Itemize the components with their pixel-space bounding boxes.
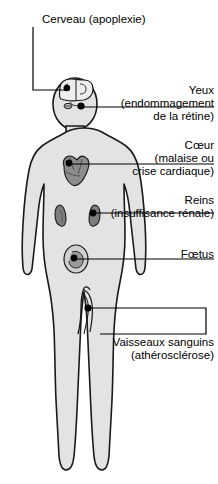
label-coeur-line-1: (malaise ou [132,152,214,165]
label-yeux: Yeux (endommagement de la rétine) [121,84,214,123]
label-yeux-line-1: (endommagement [121,97,214,110]
eye-marker-dot [77,102,84,109]
human-body-diagram [0,0,218,484]
label-reins-line-1: (insuffisance rénale) [111,207,214,220]
label-coeur-line-2: crise cardiaque) [132,165,214,178]
label-coeur-line-0: Cœur [132,139,214,152]
label-foetus: Fœtus [181,248,214,261]
heart-marker-dot [66,160,73,167]
leader-line-cerveau [33,27,67,90]
diagram-canvas: Cerveau (apoplexie) Yeux (endommagement … [0,0,218,484]
label-vaisseaux: Vaisseaux sanguins (athérosclérose) [113,336,214,362]
body-silhouette [22,78,146,470]
label-reins: Reins (insuffisance rénale) [111,194,214,220]
fetus-marker-dot [71,255,78,262]
label-yeux-line-2: de la rétine) [121,110,214,123]
label-yeux-line-0: Yeux [121,84,214,97]
label-cerveau-line-0: Cerveau (apoplexie) [42,13,146,26]
torso-limbs-shape [22,128,146,470]
label-cerveau: Cerveau (apoplexie) [42,13,146,26]
label-foetus-line-0: Fœtus [181,248,214,261]
label-vaisseaux-line-1: (athérosclérose) [113,349,214,362]
label-reins-line-0: Reins [111,194,214,207]
label-vaisseaux-line-0: Vaisseaux sanguins [113,336,214,349]
label-coeur: Cœur (malaise ou crise cardiaque) [132,139,214,178]
